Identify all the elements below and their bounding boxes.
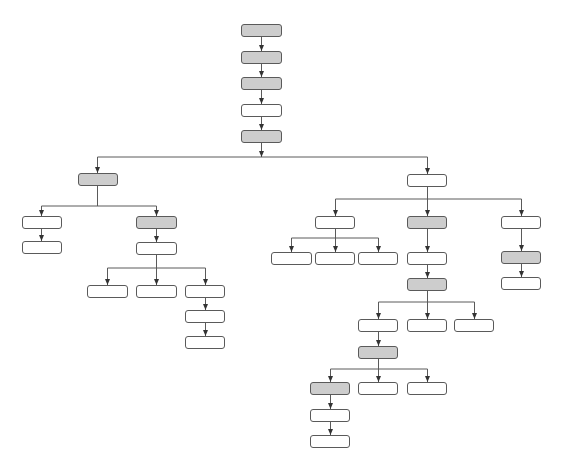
plain-node (315, 252, 355, 265)
shaded-node (78, 173, 118, 186)
plain-node (310, 435, 350, 448)
plain-node (271, 252, 312, 265)
shaded-node (310, 382, 350, 395)
shaded-node (358, 346, 398, 359)
shaded-node (136, 216, 177, 229)
arrowhead-icon (259, 151, 264, 157)
shaded-node (241, 24, 282, 37)
shaded-node (407, 278, 447, 291)
plain-node (87, 285, 128, 298)
plain-node (358, 319, 398, 332)
shaded-node (407, 216, 447, 229)
plain-node (22, 241, 62, 254)
plain-node (185, 285, 225, 298)
shaded-node (501, 251, 541, 264)
plain-node (136, 242, 177, 255)
shaded-node (241, 130, 282, 143)
shaded-node (241, 51, 282, 64)
shaded-node (241, 77, 282, 90)
plain-node (501, 277, 541, 290)
plain-node (501, 216, 541, 229)
plain-node (454, 319, 494, 332)
plain-node (407, 252, 447, 265)
plain-node (185, 310, 225, 323)
plain-node (241, 104, 282, 117)
plain-node (407, 319, 447, 332)
plain-node (310, 409, 350, 422)
connector-layer (0, 0, 563, 466)
plain-node (358, 382, 398, 395)
plain-node (315, 216, 355, 229)
plain-node (358, 252, 398, 265)
plain-node (185, 336, 225, 349)
plain-node (22, 216, 62, 229)
plain-node (136, 285, 177, 298)
plain-node (407, 174, 447, 187)
tree-diagram (0, 0, 563, 466)
plain-node (407, 382, 447, 395)
